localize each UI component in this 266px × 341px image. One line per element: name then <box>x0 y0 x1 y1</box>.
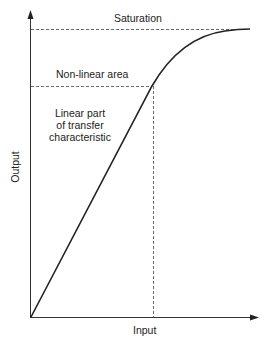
y-axis-arrow-icon <box>28 10 34 19</box>
linear-label-line2: of transfer <box>40 119 120 131</box>
linear-label-line3: characteristic <box>40 131 120 143</box>
y-axis-label: Output <box>9 147 21 187</box>
transfer-characteristic-diagram <box>0 0 266 341</box>
nonlinear-label: Non-linear area <box>56 68 128 80</box>
x-axis-label: Input <box>133 324 156 336</box>
linear-part-label: Linear part of transfer characteristic <box>40 107 120 143</box>
x-axis-arrow-icon <box>250 315 259 321</box>
saturation-label: Saturation <box>114 12 162 24</box>
linear-label-line1: Linear part <box>40 107 120 119</box>
